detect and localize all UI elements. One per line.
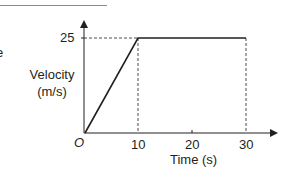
x-tick-label-30: 30 bbox=[239, 137, 253, 152]
x-tick-label-20: 20 bbox=[185, 137, 199, 152]
origin-label: O bbox=[74, 135, 84, 150]
y-axis-label: Velocity (m/s) bbox=[22, 66, 82, 100]
y-tick-label-25: 25 bbox=[60, 30, 74, 45]
y-axis-label-line-1: Velocity bbox=[22, 66, 82, 83]
x-tick-label-10: 10 bbox=[131, 137, 145, 152]
x-axis-label: Time (s) bbox=[170, 152, 217, 167]
velocity-series-line bbox=[85, 38, 246, 133]
y-axis-label-line-2: (m/s) bbox=[22, 83, 82, 100]
